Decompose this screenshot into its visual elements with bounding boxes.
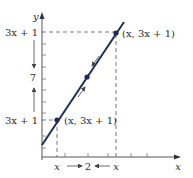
limit-diagram: y 3x + 1 7 3x + 1 (x, 3x + 1) (x, 3x + 1… [0,0,193,178]
point-center [84,74,89,79]
x-label-middle: 2 [85,161,91,172]
point-lower [54,117,59,122]
diagram-canvas: y 3x + 1 7 3x + 1 (x, 3x + 1) (x, 3x + 1… [0,0,193,178]
y-label-top: 3x + 1 [5,27,38,38]
x-axis-arrow-icon [174,155,181,160]
y-label-bottom: 3x + 1 [5,115,38,126]
y-axis-label: y [32,11,39,22]
x-axis-ticks [65,153,147,157]
function-line [42,22,124,145]
point-upper [113,30,118,35]
point-lower-label: (x, 3x + 1) [64,115,117,126]
y-label-middle: 7 [30,72,36,83]
x-label-right: x [113,161,119,172]
point-upper-label: (x, 3x + 1) [122,28,175,39]
y-axis-arrow-icon [40,12,45,19]
x-label-left: x [54,161,60,172]
y-axis-ticks [42,44,46,148]
x-axis-label: x [175,161,181,172]
x-axis [42,153,181,160]
y-axis [40,12,47,160]
